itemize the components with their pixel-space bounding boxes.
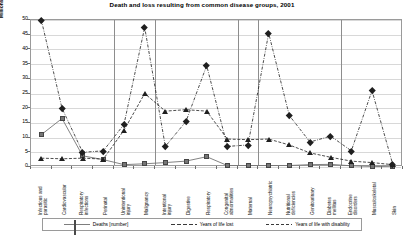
legend-swatch-deaths — [64, 221, 90, 228]
legend-label-yll: Years of life lost — [200, 222, 234, 227]
x-tick-label: Intentionalinjury — [163, 194, 172, 215]
data-point — [39, 132, 44, 137]
y-tick-label: 0 — [2, 163, 28, 168]
x-tick-mark — [278, 166, 279, 169]
square-marker-icon — [74, 220, 76, 235]
x-tick-mark — [154, 166, 155, 169]
data-point — [369, 160, 375, 165]
x-tick-mark — [237, 166, 238, 169]
data-point — [80, 156, 86, 161]
x-tick-label: Maternal — [249, 197, 254, 215]
x-tick-label: Respiratory — [207, 192, 212, 216]
data-point — [121, 128, 127, 133]
data-point — [307, 150, 313, 155]
chart-title: Death and loss resulting from common dis… — [0, 1, 404, 8]
legend-item-years-of-life-lost[interactable]: Years of life lost — [149, 221, 255, 228]
data-point — [348, 159, 354, 164]
y-tick-label: 10 — [2, 134, 28, 139]
data-point — [328, 155, 334, 160]
x-tick-mark — [175, 166, 176, 169]
data-point — [286, 112, 292, 118]
x-tick-label: Cardiovascular — [63, 184, 68, 215]
x-tick-label: Nutritionaldeficiencies — [287, 191, 296, 215]
data-point — [203, 62, 209, 68]
data-point — [100, 157, 106, 162]
x-tick-mark — [319, 166, 320, 169]
data-point — [266, 137, 272, 142]
x-tick-label: Endocrinedisorders — [349, 194, 358, 215]
x-tick-mark — [340, 166, 341, 169]
plot-area — [30, 19, 402, 166]
x-tick-mark — [113, 166, 114, 169]
x-tick-mark — [402, 166, 403, 169]
data-point — [38, 156, 44, 161]
x-tick-mark — [92, 166, 93, 169]
x-tick-mark — [381, 166, 382, 169]
legend-label-yld: Years of life with disability — [295, 222, 349, 227]
x-tick-mark — [257, 166, 258, 169]
data-point — [369, 87, 375, 93]
legend-swatch-yld — [266, 221, 292, 228]
data-point — [162, 109, 168, 114]
data-point — [184, 159, 189, 164]
x-tick-mark — [71, 166, 72, 169]
y-tick-label: 5 — [2, 149, 28, 154]
data-point — [59, 105, 65, 111]
data-point — [100, 148, 106, 154]
data-point — [142, 91, 148, 96]
data-point — [183, 107, 189, 112]
legend-item-years-of-life-with-disability[interactable]: Years of life with disability — [255, 221, 361, 228]
data-point — [327, 133, 333, 139]
chart-container: Death and loss resulting from common dis… — [0, 0, 404, 235]
y-axis-title: Millions — [0, 0, 4, 18]
x-tick-label: Respiratoryinfections — [80, 192, 89, 216]
x-tick-label: Congenitalabnormalities — [225, 188, 234, 215]
x-tick-label: Genitourinary — [311, 187, 316, 215]
legend-item-deaths[interactable]: Deaths [number] — [43, 221, 149, 228]
series-markers — [31, 20, 401, 165]
legend-label-deaths: Deaths [number] — [93, 222, 128, 227]
y-tick-label: 50 — [2, 16, 28, 21]
y-tick-label: 35 — [2, 61, 28, 66]
data-point — [183, 118, 189, 124]
y-tick-label: 15 — [2, 119, 28, 124]
x-tick-label: Perinatal — [104, 197, 109, 215]
x-tick-mark — [216, 166, 217, 169]
data-point — [348, 148, 354, 154]
data-point — [224, 137, 230, 142]
x-tick-mark — [195, 166, 196, 169]
x-tick-label: Digestive — [187, 196, 192, 215]
data-point — [60, 116, 65, 121]
data-point — [245, 142, 251, 148]
x-tick-label: Musculoskeletal — [373, 182, 378, 215]
data-point — [307, 139, 313, 145]
legend-swatch-yll — [171, 221, 197, 228]
x-tick-label: Unintentionalinjury — [122, 188, 131, 215]
x-axis-labels: Infectious andparasiticCardiovascularRes… — [30, 170, 402, 216]
y-tick-label: 40 — [2, 46, 28, 51]
data-point — [265, 30, 271, 36]
y-axis-ticks: 05101520253035404550 — [0, 19, 28, 166]
data-point — [204, 109, 210, 114]
data-point — [163, 160, 168, 165]
y-tick-label: 30 — [2, 75, 28, 80]
y-tick-label: 45 — [2, 31, 28, 36]
y-tick-label: 20 — [2, 105, 28, 110]
data-point — [121, 121, 127, 127]
data-point — [204, 154, 209, 159]
x-tick-label: Diabetesmellitus — [328, 197, 337, 215]
data-point — [38, 17, 44, 23]
x-tick-mark — [133, 166, 134, 169]
chart-legend: Deaths [number] Years of life lost Years… — [42, 218, 362, 231]
data-point — [224, 143, 230, 149]
data-point — [286, 142, 292, 147]
x-tick-mark — [30, 166, 31, 169]
x-tick-mark — [361, 166, 362, 169]
x-tick-label: Infectious andparasitic — [39, 186, 48, 215]
data-point — [59, 156, 65, 161]
x-tick-label: Skin — [393, 206, 398, 215]
data-point — [141, 24, 147, 30]
x-tick-mark — [299, 166, 300, 169]
triangle-marker-icon — [181, 222, 187, 235]
data-point — [162, 143, 168, 149]
